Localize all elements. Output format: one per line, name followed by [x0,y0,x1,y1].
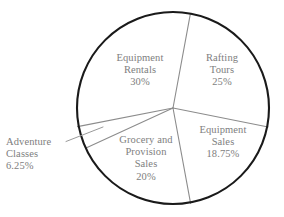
slice-label-name-line2: Tours [191,64,253,76]
slice-label-grocery-provision-sales: Grocery and Provision Sales 20% [106,134,186,183]
slice-label-name-line2: Sales [182,136,264,148]
slice-label-value: 18.75% [182,148,264,160]
slice-label-value: 6.25% [6,160,82,172]
pie-chart-graphic [0,0,284,217]
slice-label-name-line2: Rentals [98,64,182,76]
slice-label-value: 20% [106,171,186,183]
slice-label-value: 25% [191,76,253,88]
slice-label-name-line1: Equipment [182,124,264,136]
slice-label-name-line1: Equipment [98,52,182,64]
slice-label-rafting-tours: Rafting Tours 25% [191,52,253,89]
slice-label-adventure-classes: Adventure Classes 6.25% [6,136,82,173]
slice-label-name-line1: Adventure [6,136,82,148]
slice-label-name-line3: Sales [106,158,186,170]
slice-label-name-line1: Rafting [191,52,253,64]
slice-label-name-line2: Classes [6,148,82,160]
slice-label-equipment-rentals: Equipment Rentals 30% [98,52,182,89]
pie-chart: Equipment Rentals 30% Rafting Tours 25% … [0,0,284,217]
slice-label-value: 30% [98,76,182,88]
slice-label-name-line2: Provision [106,146,186,158]
slice-label-name-line1: Grocery and [106,134,186,146]
slice-label-equipment-sales: Equipment Sales 18.75% [182,124,264,161]
